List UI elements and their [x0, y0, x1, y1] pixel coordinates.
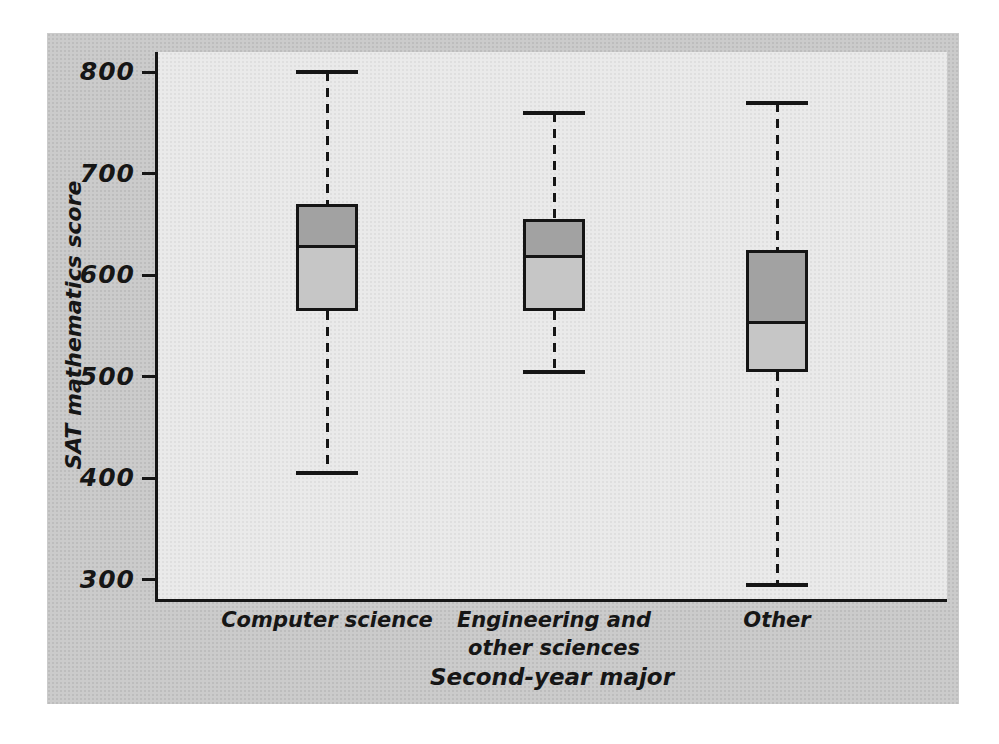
- y-tick: [142, 71, 156, 74]
- box-upper-half: [299, 207, 355, 245]
- y-tick: [142, 375, 156, 378]
- category-label: Computer science: [221, 606, 433, 634]
- category-label: Other: [743, 606, 810, 634]
- figure: SAT mathematics score Second-year major …: [47, 33, 959, 704]
- y-tick-label: 700: [55, 159, 135, 188]
- y-tick-label: 300: [55, 565, 135, 594]
- y-axis-title: SAT mathematics score: [61, 181, 86, 470]
- x-axis-title: Second-year major: [430, 664, 674, 690]
- iqr-box: [746, 250, 808, 372]
- whisker-line-lower: [553, 311, 556, 372]
- category-label: Engineering and other sciences: [457, 606, 651, 663]
- whisker-line-upper: [553, 113, 556, 220]
- page: SAT mathematics score Second-year major …: [0, 0, 999, 744]
- y-tick-label: 400: [55, 463, 135, 492]
- median-line: [749, 321, 805, 324]
- y-tick: [142, 578, 156, 581]
- whisker-line-upper: [776, 103, 779, 250]
- y-axis-line: [155, 52, 158, 602]
- whisker-line-lower: [326, 311, 329, 473]
- y-tick-label: 600: [55, 260, 135, 289]
- y-tick: [142, 477, 156, 480]
- box-upper-half: [526, 222, 582, 255]
- box-upper-half: [749, 253, 805, 321]
- x-axis-line: [155, 599, 947, 602]
- iqr-box: [296, 204, 358, 311]
- y-tick-label: 500: [55, 362, 135, 391]
- whisker-line-upper: [326, 72, 329, 204]
- iqr-box: [523, 219, 585, 310]
- y-tick: [142, 274, 156, 277]
- whisker-line-lower: [776, 372, 779, 585]
- y-tick-label: 800: [55, 57, 135, 86]
- median-line: [299, 245, 355, 248]
- y-tick: [142, 172, 156, 175]
- median-line: [526, 255, 582, 258]
